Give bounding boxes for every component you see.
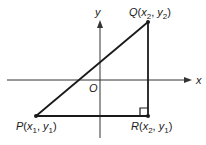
y-axis xyxy=(97,20,103,138)
point-p xyxy=(34,114,38,118)
x-axis-arrow-icon xyxy=(184,77,192,83)
origin-label: O xyxy=(89,82,98,94)
segment-pq xyxy=(36,22,148,116)
y-axis-label: y xyxy=(94,6,102,18)
coordinate-diagram: x y O Q(x2, y2) P(x1, y1) R(x2, y1) xyxy=(0,0,206,145)
point-r xyxy=(146,114,150,118)
point-r-label: R(x2, y1) xyxy=(131,120,172,135)
point-p-label: P(x1, y1) xyxy=(16,120,57,135)
point-q-label: Q(x2, y2) xyxy=(129,6,171,21)
y-axis-arrow-icon xyxy=(97,20,103,28)
x-axis-label: x xyxy=(195,74,202,86)
